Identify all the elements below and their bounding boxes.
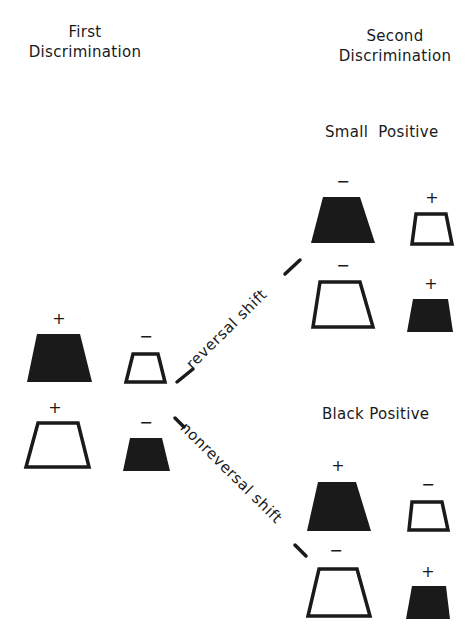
sign-minus: − — [336, 256, 349, 275]
sign-plus: + — [425, 188, 438, 207]
sign-minus: − — [329, 541, 342, 560]
sign-plus: + — [331, 456, 344, 475]
diagram-canvas: + − + − reversal shift nonreversal shift… — [0, 0, 476, 633]
large-white-trapezoid — [308, 569, 370, 616]
large-black-trapezoid — [311, 197, 375, 243]
small-white-trapezoid — [409, 502, 448, 530]
small-black-trapezoid — [123, 438, 170, 471]
sign-plus: + — [424, 274, 437, 293]
large-white-trapezoid — [313, 282, 373, 327]
black-positive-row-1: + − — [307, 456, 448, 531]
nonreversal-shift-label: nonreversal shift — [177, 418, 286, 527]
first-row-1: + − — [27, 309, 165, 382]
small-white-trapezoid — [412, 214, 452, 244]
sign-minus: − — [139, 413, 152, 432]
large-white-trapezoid — [26, 423, 89, 467]
small-black-trapezoid — [406, 586, 450, 619]
black-positive-row-2: − + — [308, 541, 450, 619]
small-white-trapezoid — [126, 354, 165, 382]
nonreversal-shift-connector: nonreversal shift — [175, 418, 306, 556]
sign-minus: − — [421, 475, 434, 494]
large-black-trapezoid — [27, 334, 92, 382]
sign-minus: − — [139, 327, 152, 346]
sign-plus: + — [52, 309, 65, 328]
small-black-trapezoid — [407, 299, 453, 332]
sign-plus: + — [421, 562, 434, 581]
small-positive-row-1: − + — [311, 172, 452, 244]
large-black-trapezoid — [307, 482, 371, 531]
reversal-shift-connector: reversal shift — [177, 260, 300, 382]
first-row-2: + − — [26, 398, 170, 471]
sign-plus: + — [48, 398, 61, 417]
reversal-shift-label: reversal shift — [182, 286, 270, 373]
sign-minus: − — [336, 172, 349, 191]
small-positive-row-2: − + — [313, 256, 453, 332]
